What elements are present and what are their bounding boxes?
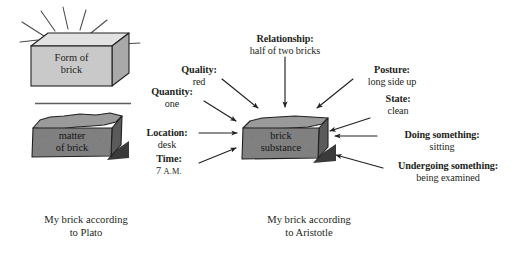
category-state: State: clean bbox=[372, 93, 424, 116]
plato-caption-line1: My brick according bbox=[44, 214, 128, 225]
plato-caption: My brick according to Plato bbox=[11, 214, 161, 240]
aristotle-caption-line2: to Aristotle bbox=[285, 227, 332, 238]
brick-substance-label: brick substance bbox=[243, 130, 319, 154]
category-doing-something: Doing something: sitting bbox=[381, 129, 503, 152]
doing-header: Doing something: bbox=[381, 129, 503, 141]
substance-line2: substance bbox=[261, 142, 301, 153]
form-brick-line2: brick bbox=[61, 64, 82, 75]
posture-header: Posture: bbox=[344, 64, 440, 76]
posture-value: long side up bbox=[344, 76, 440, 88]
undergoing-header: Undergoing something: bbox=[383, 160, 513, 172]
relationship-header: Relationship: bbox=[205, 33, 365, 45]
relationship-value: half of two bricks bbox=[205, 45, 365, 57]
time-header: Time: bbox=[141, 153, 197, 165]
time-value: 7 A.M. bbox=[141, 165, 197, 178]
philosophy-brick-diagram: Form of brick matter of brick brick subs… bbox=[0, 0, 514, 259]
form-brick-line1: Form of bbox=[55, 52, 89, 63]
time-meridiem: A.M. bbox=[164, 167, 182, 176]
aristotle-caption: My brick according to Aristotle bbox=[234, 214, 384, 240]
aristotle-caption-line1: My brick according bbox=[267, 214, 351, 225]
arrow-state bbox=[330, 118, 370, 131]
quality-header: Quality: bbox=[166, 64, 232, 76]
category-quantity: Quantity: one bbox=[140, 86, 204, 109]
matter-brick-line2: of brick bbox=[56, 142, 89, 153]
category-undergoing-something: Undergoing something: being examined bbox=[383, 160, 513, 183]
location-header: Location: bbox=[137, 127, 197, 139]
time-number: 7 bbox=[156, 165, 161, 176]
form-of-brick-label: Form of brick bbox=[31, 52, 112, 76]
arrow-quantity bbox=[204, 101, 236, 121]
matter-brick-line1: matter bbox=[59, 130, 86, 141]
undergoing-value: being examined bbox=[383, 172, 513, 184]
state-header: State: bbox=[372, 93, 424, 105]
location-value: desk bbox=[137, 139, 197, 151]
category-posture: Posture: long side up bbox=[344, 64, 440, 87]
category-relationship: Relationship: half of two bricks bbox=[205, 33, 365, 56]
plato-caption-line2: to Plato bbox=[70, 227, 103, 238]
arrow-time bbox=[199, 148, 236, 163]
category-time: Time: 7 A.M. bbox=[141, 153, 197, 177]
state-value: clean bbox=[372, 105, 424, 117]
category-quality: Quality: red bbox=[166, 64, 232, 87]
quantity-value: one bbox=[140, 98, 204, 110]
quantity-header: Quantity: bbox=[140, 86, 204, 98]
arrow-undergoing bbox=[336, 155, 383, 168]
doing-value: sitting bbox=[381, 141, 503, 153]
substance-line1: brick bbox=[270, 130, 291, 141]
matter-of-brick-label: matter of brick bbox=[32, 130, 112, 154]
category-location: Location: desk bbox=[137, 127, 197, 150]
